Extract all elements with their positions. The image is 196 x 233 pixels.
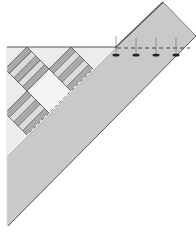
quilt-corner-diagram (0, 0, 196, 233)
